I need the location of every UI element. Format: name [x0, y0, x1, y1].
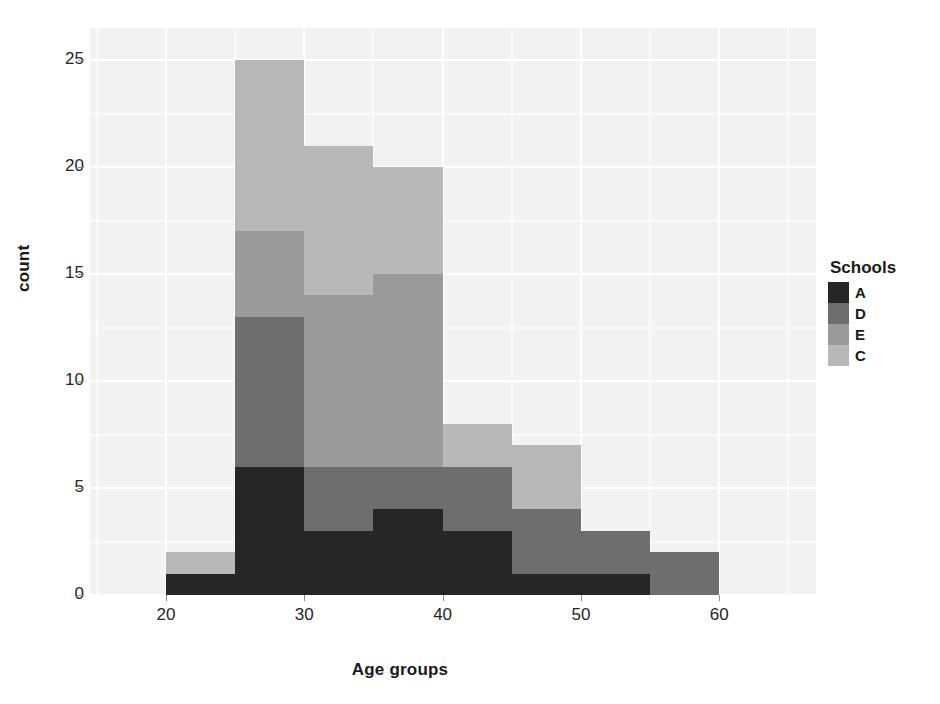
gridline-vertical-major: [718, 28, 720, 595]
chart-root: count Age groups 0510152025 2030405060 S…: [0, 0, 940, 704]
bar-segment: [235, 467, 304, 595]
bar-segment: [512, 509, 581, 573]
gridline-horizontal-minor: [90, 220, 816, 222]
legend-item-c: C: [828, 345, 934, 366]
bar-segment: [512, 445, 581, 509]
legend-item-a: A: [828, 282, 934, 303]
bar-segment: [235, 231, 304, 317]
bar-segment: [166, 574, 235, 595]
x-tick-label: 60: [689, 605, 749, 625]
bar-segment: [443, 531, 512, 595]
bar-segment: [581, 574, 650, 595]
bar-segment: [166, 552, 235, 573]
bar-segment: [304, 531, 373, 595]
legend: Schools ADEC: [828, 258, 934, 366]
gridline-vertical-minor: [96, 28, 98, 595]
bar-segment: [443, 424, 512, 467]
x-tick-mark: [443, 595, 444, 601]
bar-segment: [373, 467, 442, 510]
bar-segment: [373, 509, 442, 595]
x-tick-mark: [581, 595, 582, 601]
gridline-horizontal-minor: [90, 113, 816, 115]
x-tick-label: 50: [551, 605, 611, 625]
gridline-horizontal-major: [90, 380, 816, 382]
legend-item-d: D: [828, 303, 934, 324]
gridline-horizontal-major: [90, 59, 816, 61]
legend-label: C: [855, 345, 866, 366]
x-tick-label: 20: [136, 605, 196, 625]
bar-segment: [443, 467, 512, 531]
bar-segment: [304, 146, 373, 296]
bar-segment: [304, 295, 373, 466]
x-tick-mark: [166, 595, 167, 601]
bar-segment: [373, 167, 442, 274]
gridline-vertical-minor: [649, 28, 651, 595]
gridline-vertical-major: [165, 28, 167, 595]
legend-label: D: [855, 303, 866, 324]
bar-segment: [373, 274, 442, 467]
bar-segment: [650, 552, 719, 595]
legend-title: Schools: [828, 258, 934, 278]
bar-segment: [512, 574, 581, 595]
gridline-vertical-minor: [787, 28, 789, 595]
bar-segment: [304, 467, 373, 531]
x-tick-label: 40: [413, 605, 473, 625]
plot-panel: [90, 28, 816, 595]
gridline-horizontal-major: [90, 166, 816, 168]
bar-segment: [235, 60, 304, 231]
legend-key-swatch: [828, 345, 849, 366]
legend-key-swatch: [828, 282, 849, 303]
legend-items: ADEC: [828, 282, 934, 366]
x-tick-label: 30: [274, 605, 334, 625]
gridline-horizontal-major: [90, 273, 816, 275]
legend-label: E: [855, 324, 865, 345]
legend-key-swatch: [828, 303, 849, 324]
bar-segment: [581, 531, 650, 574]
x-tick-mark: [719, 595, 720, 601]
x-tick-mark: [304, 595, 305, 601]
legend-label: A: [855, 282, 866, 303]
legend-item-e: E: [828, 324, 934, 345]
gridline-horizontal-minor: [90, 327, 816, 329]
legend-key-swatch: [828, 324, 849, 345]
bar-segment: [235, 317, 304, 467]
